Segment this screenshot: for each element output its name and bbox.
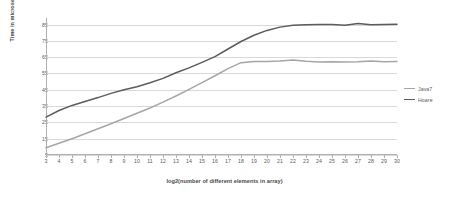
x-axis-tick-label: 20 [264, 158, 270, 164]
x-axis-tick-label: 3 [45, 158, 48, 164]
x-axis-tick-label: 16 [212, 158, 218, 164]
y-axis-title: Time in microseconds [9, 0, 15, 52]
x-axis-tick-label: 24 [316, 158, 322, 164]
x-axis-tick-label: 21 [277, 158, 283, 164]
x-axis-tick-label: 14 [186, 158, 192, 164]
series-line-hoare [46, 24, 397, 118]
legend-label: Hoare [418, 97, 433, 103]
x-axis-tick-label: 15 [199, 158, 205, 164]
series-lines [46, 18, 397, 155]
y-axis-tick-label: 85 [26, 22, 48, 28]
x-axis-tick-label: 19 [251, 158, 257, 164]
x-axis-tick-label: 8 [110, 158, 113, 164]
legend-swatch-icon [404, 88, 415, 90]
chart-legend: Java7Hoare [404, 83, 433, 105]
x-axis-tick-label: 30 [394, 158, 400, 164]
x-axis-tick-label: 17 [225, 158, 231, 164]
y-axis-tick-label: 55 [26, 70, 48, 76]
x-axis-tick-label: 11 [147, 158, 152, 164]
x-axis-tick-label: 12 [160, 158, 166, 164]
series-line-java7 [46, 60, 397, 148]
x-axis-tick-label: 22 [290, 158, 296, 164]
legend-item[interactable]: Java7 [404, 83, 433, 94]
y-axis-tick-label: 65 [26, 54, 48, 60]
y-axis-tick-label: 75 [26, 38, 48, 44]
x-axis-title: log2(number of different elements in arr… [0, 178, 449, 184]
x-axis-tick-label: 27 [355, 158, 361, 164]
plot-area [46, 18, 397, 155]
x-axis-tick-label: 18 [238, 158, 244, 164]
y-axis-tick-label: 45 [26, 87, 48, 93]
x-axis-tick-label: 7 [97, 158, 100, 164]
x-axis-tick-label: 9 [123, 158, 126, 164]
x-axis-tick-label: 29 [381, 158, 387, 164]
line-chart: Time in microseconds 51525354555657585 3… [0, 0, 449, 197]
y-axis-tick-label: 15 [26, 136, 48, 142]
x-axis-tick-label: 26 [342, 158, 348, 164]
legend-swatch-icon [404, 99, 415, 101]
x-axis-tick-label: 6 [84, 158, 87, 164]
x-axis-tick-label: 10 [134, 158, 140, 164]
legend-item[interactable]: Hoare [404, 94, 433, 105]
x-axis-tick-label: 5 [71, 158, 74, 164]
y-axis-tick-label: 25 [26, 119, 48, 125]
y-axis-tick-label: 35 [26, 103, 48, 109]
legend-label: Java7 [418, 86, 432, 92]
x-axis-tick-label: 4 [58, 158, 61, 164]
x-axis-tick-label: 25 [329, 158, 335, 164]
x-axis-tick-label: 28 [368, 158, 374, 164]
x-axis-tick-label: 23 [303, 158, 309, 164]
x-axis-tick-label: 13 [173, 158, 179, 164]
